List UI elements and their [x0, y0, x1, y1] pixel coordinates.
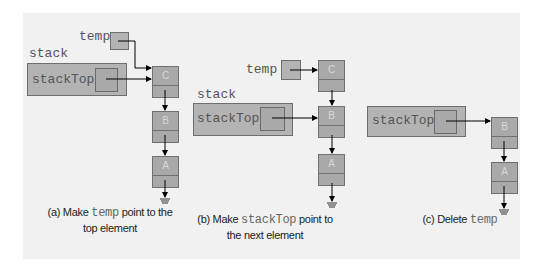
- temp-arrow: [118, 41, 151, 68]
- pointer-arrows: [0, 0, 543, 269]
- ground-symbols: [160, 199, 509, 214]
